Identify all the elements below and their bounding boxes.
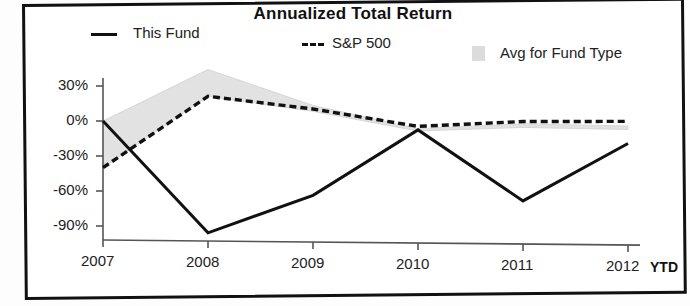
x-tick-label-2012: 2012 [606,257,639,274]
x-tick-label-2007: 2007 [81,252,114,269]
y-tick-label-1: 0% [18,111,88,128]
y-tick-label-4: -90% [18,216,88,233]
x-tick-label-2010: 2010 [396,255,429,272]
y-tick-label-3: -60% [18,181,88,198]
chart-screenshot: Annualized Total Return This Fund S&P 50… [0,0,690,306]
x-axis-ytd-label: YTD [650,259,678,275]
x-tick-label-2008: 2008 [186,253,219,270]
x-tick-label-2011: 2011 [501,256,533,273]
x-tick-label-2009: 2009 [291,254,324,271]
y-tick-label-2: -30% [18,146,88,163]
y-tick-label-0: 30% [18,76,88,93]
